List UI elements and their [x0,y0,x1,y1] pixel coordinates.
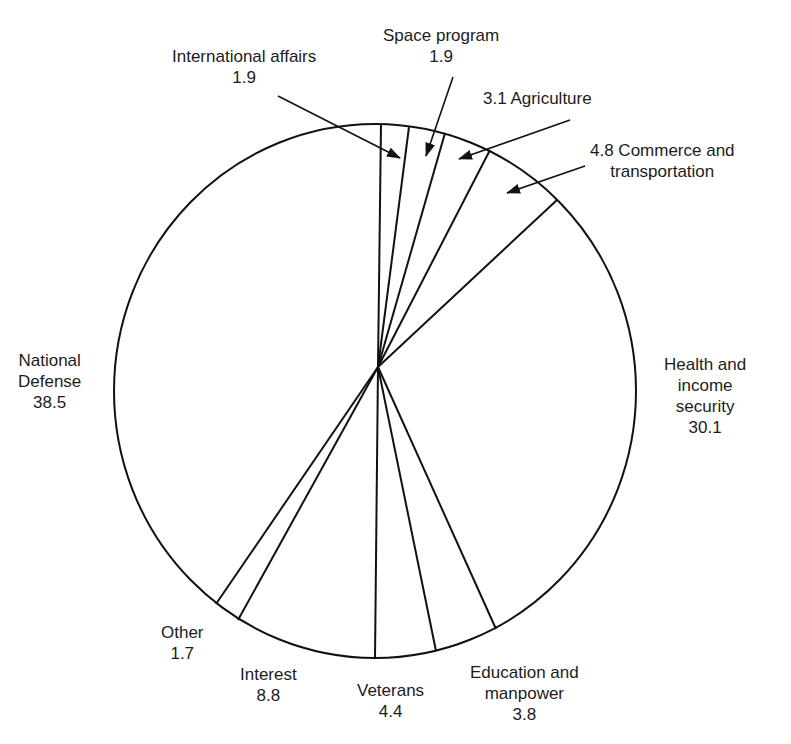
label-education-manpower: Education and manpower 3.8 [470,662,579,725]
label-national-defense: National Defense 38.5 [18,350,81,413]
label-health-income-security: Health and income security 30.1 [664,354,746,438]
label-text: International affairs [172,46,316,67]
label-veterans: Veterans 4.4 [357,680,424,722]
label-interest: Interest 8.8 [240,664,297,706]
label-space-program: Space program 1.9 [383,25,499,67]
label-value: 1.9 [172,67,316,88]
label-commerce-transportation: 4.8 Commerce and transportation [590,140,735,182]
label-text-2: manpower [470,683,579,704]
label-value: 3.8 [470,704,579,725]
label-text: 3.1 Agriculture [483,88,592,109]
label-text-2: transportation [590,161,735,182]
arrow-agri [459,120,570,159]
label-value: 1.9 [383,46,499,67]
label-text-3: security [664,396,746,417]
label-international-affairs: International affairs 1.9 [172,46,316,88]
label-text: National [18,350,81,371]
label-text: Other [161,622,204,643]
label-value: 1.7 [161,643,204,664]
label-text: Education and [470,662,579,683]
label-text: Health and [664,354,746,375]
label-text: Space program [383,25,499,46]
label-text: 4.8 Commerce and [590,140,735,161]
label-text: Veterans [357,680,424,701]
label-other: Other 1.7 [161,622,204,664]
label-text-2: Defense [18,371,81,392]
label-value: 8.8 [240,685,297,706]
label-text-2: income [664,375,746,396]
label-value: 30.1 [664,417,746,438]
label-agriculture: 3.1 Agriculture [483,88,592,109]
label-value: 38.5 [18,392,81,413]
label-text: Interest [240,664,297,685]
label-value: 4.4 [357,701,424,722]
